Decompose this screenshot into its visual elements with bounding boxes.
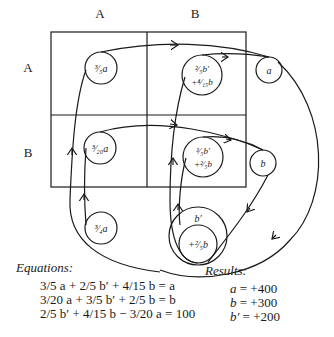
results-title: Results: — [205, 263, 247, 279]
equations-title: Equations: — [16, 260, 73, 276]
equation-1: 3/5 a + 2/5 b′ + 4/15 b = a — [40, 279, 175, 292]
matrix-grid — [51, 32, 246, 187]
node-b-prime-inner-label: +²⁄₅b — [188, 239, 208, 250]
result-var: b′ — [230, 309, 239, 324]
node-bb-label-2: +²⁄₅b — [194, 159, 212, 169]
node-b-prime-label: b′ — [194, 213, 202, 224]
result-value: +200 — [253, 309, 280, 324]
column-header-b: B — [191, 6, 200, 21]
node-bb-label-1: ³⁄₅b′ — [196, 146, 211, 156]
column-header-a: A — [95, 6, 105, 21]
flow-ba-to-b — [100, 125, 263, 150]
flow-ab-loop — [170, 77, 198, 263]
node-ab-label-2: +⁴⁄₁₅b — [191, 77, 213, 87]
row-header-b: B — [24, 145, 33, 160]
result-b-prime: b′ = +200 — [230, 309, 280, 325]
flow-b-to-bprime — [208, 175, 268, 262]
row-header-a: A — [23, 60, 33, 75]
node-ab-label-1: ²⁄₅b′ — [195, 64, 210, 74]
node-bb — [183, 137, 223, 177]
flow-aa-to-a — [101, 44, 269, 57]
node-ba-label: ³⁄₂₀a — [92, 143, 109, 154]
result-var: b — [230, 295, 237, 310]
equation-2: 3/20 a + 3/5 b′ + 2/5 b = b — [40, 293, 176, 306]
flow-bb-loop — [179, 158, 186, 225]
node-ab — [182, 55, 222, 95]
result-value: +400 — [250, 281, 277, 296]
node-aa-label: ³⁄₅a — [94, 63, 107, 74]
node-b-out-label: b — [261, 158, 266, 169]
equation-3: 2/5 b′ + 4/15 b − 3/20 a = 100 — [40, 307, 195, 320]
result-value: +300 — [250, 295, 277, 310]
node-three-quarter-a-label: ³⁄₄a — [94, 223, 107, 234]
node-a-out-label: a — [267, 65, 272, 76]
result-var: a — [230, 281, 237, 296]
